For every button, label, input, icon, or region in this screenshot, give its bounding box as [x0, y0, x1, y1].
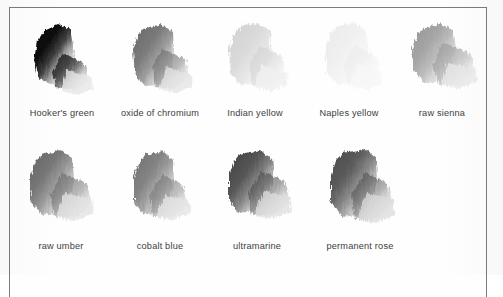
- swatch-cell-oxide-of-chromium: oxide of chromium: [111, 15, 209, 143]
- swatch-row: Hooker's green: [9, 15, 487, 143]
- paint-stroke-raw-sienna: [403, 19, 481, 103]
- swatch-image-ultramarine: [209, 143, 305, 231]
- swatch-image-oxide-of-chromium: [111, 15, 209, 103]
- swatch-cell-indian-yellow: Indian yellow: [209, 15, 301, 143]
- swatch-cell-ultramarine: ultramarine: [209, 143, 305, 275]
- paint-stroke-oxide-of-chromium: [121, 19, 199, 103]
- swatch-image-indian-yellow: [209, 15, 301, 103]
- swatch-cell-hookers-green: Hooker's green: [13, 15, 111, 143]
- swatch-image-hookers-green: [13, 15, 111, 103]
- swatch-cell-cobalt-blue: cobalt blue: [111, 143, 209, 275]
- paint-stroke-ultramarine: [218, 147, 296, 231]
- swatch-label: raw sienna: [397, 107, 487, 119]
- paint-stroke-naples-yellow: [310, 19, 388, 103]
- swatch-image-cobalt-blue: [111, 143, 209, 231]
- swatch-label: Indian yellow: [209, 107, 301, 119]
- swatch-cell-permanent-rose: permanent rose: [305, 143, 415, 275]
- swatch-label: ultramarine: [209, 240, 305, 252]
- swatch-label: oxide of chromium: [111, 107, 209, 119]
- swatch-image-raw-sienna: [397, 15, 487, 103]
- swatch-label: cobalt blue: [111, 240, 209, 252]
- swatch-label: Naples yellow: [301, 107, 397, 119]
- paint-stroke-raw-umber: [22, 147, 100, 231]
- swatch-row: raw umber: [9, 143, 487, 275]
- swatch-image-permanent-rose: [305, 143, 415, 231]
- paint-stroke-hookers-green: [23, 19, 101, 103]
- swatch-cell-raw-umber: raw umber: [11, 143, 111, 275]
- swatch-label: permanent rose: [305, 240, 415, 252]
- swatch-grid: Hooker's green: [9, 7, 487, 275]
- paint-stroke-permanent-rose: [321, 147, 399, 231]
- swatch-cell-naples-yellow: Naples yellow: [301, 15, 397, 143]
- swatch-label: Hooker's green: [13, 107, 111, 119]
- swatch-image-raw-umber: [11, 143, 111, 231]
- swatch-label: raw umber: [11, 240, 111, 252]
- swatch-image-naples-yellow: [301, 15, 397, 103]
- swatch-cell-raw-sienna: raw sienna: [397, 15, 487, 143]
- paint-stroke-cobalt-blue: [121, 147, 199, 231]
- paint-stroke-indian-yellow: [216, 19, 294, 103]
